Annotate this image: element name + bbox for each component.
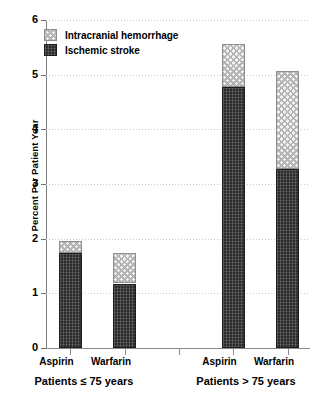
plot-area: 6 5 4 3 2 1 0 [46,20,310,348]
legend-label: Ischemic stroke [65,45,140,56]
gridline-6 [46,20,310,21]
x-label-aspirin-le75: Aspirin [29,356,84,367]
x-tick-mark-4 [233,349,234,355]
legend-item-intracranial-hemorrhage[interactable]: Intracranial hemorrhage [44,28,178,42]
y-tick-label-4: 4 [20,123,38,134]
group-label-le75: Patients ≤ 75 years [14,375,154,387]
bar-segment-ischemic[interactable] [59,253,82,348]
y-tick-label-0: 0 [20,342,38,353]
y-tick-label-3: 3 [20,178,38,189]
legend-label: Intracranial hemorrhage [65,30,178,41]
y-tick-mark-1 [41,293,46,294]
group-label-gt75: Patients > 75 years [176,375,316,387]
x-label-warfarin-gt75: Warfarin [245,356,303,367]
chart-figure: Percent Per Patient Year 6 5 4 3 2 1 0 [0,0,318,398]
bar-segment-ischemic[interactable] [276,169,299,348]
y-tick-label-2: 2 [20,233,38,244]
gridline-1 [46,293,310,294]
gridline-4 [46,129,310,130]
x-axis-line [46,348,310,349]
y-tick-mark-2 [41,239,46,240]
bar-segment-hemorrhage[interactable] [222,44,245,87]
y-tick-mark-0 [41,348,46,349]
x-label-warfarin-le75: Warfarin [82,356,140,367]
bar-segment-hemorrhage[interactable] [113,253,136,283]
bar-segment-hemorrhage[interactable] [59,241,82,253]
bar-segment-ischemic[interactable] [113,284,136,349]
bar-segment-hemorrhage[interactable] [276,71,299,169]
x-label-aspirin-gt75: Aspirin [192,356,247,367]
legend-swatch-hemorrhage-icon [44,29,57,41]
gridline-2 [46,239,310,240]
legend-swatch-ischemic-icon [44,44,57,56]
x-tick-mark-5 [288,349,289,355]
y-tick-mark-4 [41,129,46,130]
x-tick-mark-3 [179,349,180,355]
y-tick-mark-5 [41,75,46,76]
gridline-5 [46,75,310,76]
chart-legend: Intracranial hemorrhage Ischemic stroke [44,28,178,58]
bar-segment-ischemic[interactable] [222,87,245,348]
legend-item-ischemic-stroke[interactable]: Ischemic stroke [44,43,178,57]
y-tick-label-1: 1 [20,287,38,298]
x-tick-mark-1 [70,349,71,355]
y-tick-mark-6 [41,20,46,21]
gridline-3 [46,184,310,185]
y-tick-mark-3 [41,184,46,185]
y-tick-label-6: 6 [20,14,38,25]
x-tick-mark-2 [125,349,126,355]
y-tick-label-5: 5 [20,69,38,80]
